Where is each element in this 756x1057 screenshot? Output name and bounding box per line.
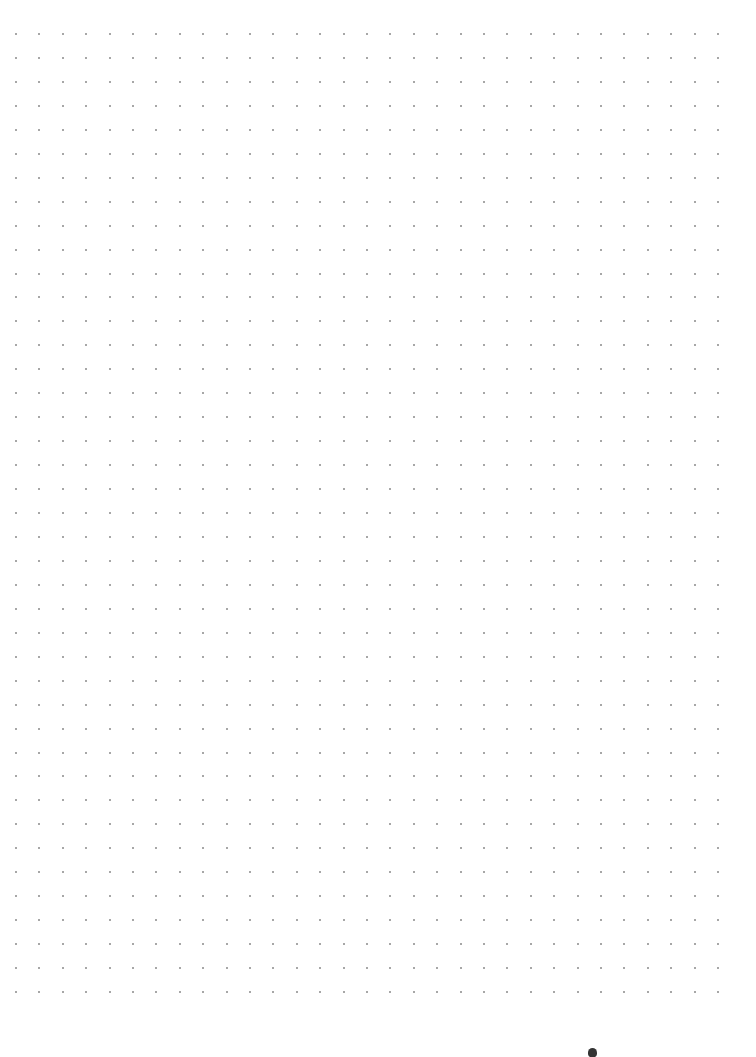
grid-dot: [202, 775, 204, 777]
grid-dot: [647, 153, 649, 155]
grid-dot: [202, 81, 204, 83]
grid-dot: [109, 536, 111, 538]
grid-dot: [436, 680, 438, 682]
grid-dot: [436, 129, 438, 131]
grid-dot: [600, 656, 602, 658]
grid-dot: [296, 584, 298, 586]
grid-dot: [647, 632, 649, 634]
grid-dot: [226, 249, 228, 251]
grid-dot: [179, 464, 181, 466]
grid-dot: [62, 536, 64, 538]
grid-dot: [366, 608, 368, 610]
grid-dot: [717, 57, 719, 59]
grid-dot: [272, 752, 274, 754]
grid-dot: [647, 512, 649, 514]
grid-dot: [15, 33, 17, 35]
grid-dot: [460, 823, 462, 825]
grid-dot: [343, 943, 345, 945]
grid-dot: [155, 225, 157, 227]
grid-dot: [553, 320, 555, 322]
grid-dot: [202, 991, 204, 993]
grid-dot: [553, 752, 555, 754]
grid-dot: [132, 728, 134, 730]
grid-dot: [600, 799, 602, 801]
grid-dot: [15, 249, 17, 251]
grid-dot: [155, 464, 157, 466]
grid-dot: [226, 775, 228, 777]
grid-dot: [202, 943, 204, 945]
grid-dot: [670, 33, 672, 35]
grid-dot: [62, 105, 64, 107]
grid-dot: [460, 344, 462, 346]
grid-dot: [155, 919, 157, 921]
grid-dot: [38, 440, 40, 442]
grid-dot: [436, 488, 438, 490]
grid-dot: [343, 177, 345, 179]
grid-dot: [436, 775, 438, 777]
grid-dot: [436, 967, 438, 969]
grid-dot: [38, 680, 40, 682]
grid-dot: [62, 129, 64, 131]
grid-dot: [483, 632, 485, 634]
grid-dot: [553, 33, 555, 35]
grid-dot: [623, 488, 625, 490]
grid-dot: [155, 440, 157, 442]
grid-dot: [38, 344, 40, 346]
grid-dot: [249, 296, 251, 298]
grid-dot: [155, 871, 157, 873]
grid-dot: [436, 440, 438, 442]
grid-dot: [366, 680, 368, 682]
grid-dot: [389, 991, 391, 993]
grid-dot: [460, 584, 462, 586]
grid-dot: [155, 584, 157, 586]
grid-dot: [413, 153, 415, 155]
grid-dot: [62, 632, 64, 634]
grid-dot: [202, 440, 204, 442]
grid-dot: [530, 680, 532, 682]
grid-dot: [296, 632, 298, 634]
grid-dot: [272, 57, 274, 59]
grid-dot: [296, 488, 298, 490]
grid-dot: [506, 344, 508, 346]
grid-dot: [694, 177, 696, 179]
grid-dot: [319, 775, 321, 777]
grid-dot: [366, 320, 368, 322]
grid-dot: [577, 752, 579, 754]
grid-dot: [530, 392, 532, 394]
grid-dot: [600, 704, 602, 706]
grid-dot: [109, 632, 111, 634]
grid-dot: [553, 57, 555, 59]
grid-dot: [226, 656, 228, 658]
grid-dot: [343, 440, 345, 442]
grid-dot: [670, 752, 672, 754]
grid-dot: [717, 201, 719, 203]
grid-dot: [530, 967, 532, 969]
grid-dot: [623, 943, 625, 945]
grid-dot: [226, 464, 228, 466]
grid-dot: [670, 967, 672, 969]
grid-dot: [600, 129, 602, 131]
grid-dot: [623, 368, 625, 370]
grid-dot: [647, 991, 649, 993]
grid-dot: [179, 680, 181, 682]
grid-dot: [623, 129, 625, 131]
grid-dot: [577, 823, 579, 825]
grid-dot: [62, 752, 64, 754]
grid-dot: [577, 536, 579, 538]
grid-dot: [460, 871, 462, 873]
grid-dot: [109, 608, 111, 610]
grid-dot: [670, 871, 672, 873]
grid-dot: [296, 991, 298, 993]
grid-dot: [460, 105, 462, 107]
grid-dot: [249, 632, 251, 634]
grid-dot: [577, 320, 579, 322]
grid-dot: [132, 704, 134, 706]
grid-dot: [413, 392, 415, 394]
grid-dot: [413, 249, 415, 251]
grid-dot: [62, 440, 64, 442]
grid-dot: [623, 296, 625, 298]
grid-dot: [506, 536, 508, 538]
grid-dot: [647, 177, 649, 179]
grid-dot: [600, 775, 602, 777]
grid-dot: [226, 177, 228, 179]
